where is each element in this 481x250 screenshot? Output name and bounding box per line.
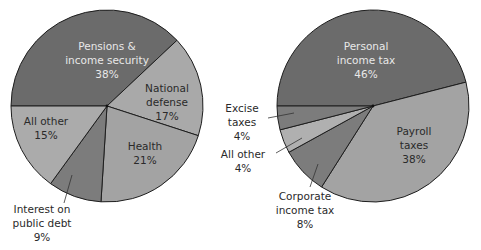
- pie-center-dot: [106, 105, 109, 108]
- pie-charts: Pensions &income security38%Nationaldefe…: [0, 0, 481, 250]
- pie-center-dot: [372, 105, 375, 108]
- revenue-pie: Personalincome tax46%Payrolltaxes38%Corp…: [221, 10, 469, 230]
- slice-label-excise-taxes: Excisetaxes4%: [225, 102, 258, 142]
- slice-label-all-other: All other4%: [221, 148, 266, 174]
- slice-label-corporate-income-tax: Corporateincome tax8%: [276, 190, 335, 230]
- slice-label-interest-on-public-debt: Interest onpublic debt9%: [13, 203, 72, 243]
- spending-pie: Pensions &income security38%Nationaldefe…: [11, 10, 203, 243]
